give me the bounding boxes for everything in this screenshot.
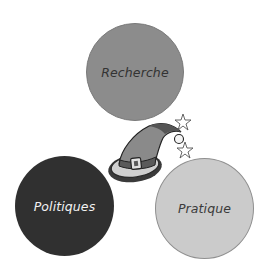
circle-label-recherche: Recherche [101, 65, 168, 80]
star-icon [177, 142, 193, 158]
circle-recherche: Recherche [86, 23, 184, 121]
wizard-hat-icon [105, 112, 195, 187]
circle-label-politiques: Politiques [34, 199, 96, 214]
circle-politiques: Politiques [15, 156, 114, 256]
circle-label-pratique: Pratique [178, 201, 231, 216]
star-icon [175, 114, 191, 130]
